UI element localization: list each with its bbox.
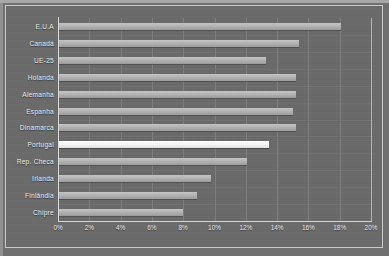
bar-row	[58, 204, 371, 221]
category-label-alemanha: Alemanha	[6, 91, 54, 98]
x-tick-label-8pct: 8%	[179, 224, 188, 231]
bar-row	[58, 120, 371, 137]
category-label-canad: Canadá	[6, 40, 54, 47]
y-label-slot: Finlândia	[6, 187, 54, 204]
y-label-slot: Portugal	[6, 136, 54, 153]
y-label-slot: Alemanha	[6, 86, 54, 103]
bar-row	[58, 136, 371, 153]
x-tick-label-16pct: 16%	[302, 224, 315, 231]
category-label-dinamarca: Dinamarca	[6, 124, 54, 131]
category-label-espanha: Espanha	[6, 108, 54, 115]
x-tick-label-12pct: 12%	[239, 224, 252, 231]
y-label-slot: Holanda	[6, 69, 54, 86]
bar-portugal[interactable]	[58, 141, 269, 148]
y-label-slot: Dinamarca	[6, 120, 54, 137]
bar-alemanha[interactable]	[58, 91, 296, 98]
y-label-slot: Espanha	[6, 103, 54, 120]
bar-rep-checa[interactable]	[58, 158, 247, 165]
bar-dinamarca[interactable]	[58, 124, 296, 131]
x-tick-label-6pct: 6%	[147, 224, 156, 231]
category-label-portugal: Portugal	[6, 141, 54, 148]
y-axis-category-labels: E.U.ACanadáUE-25HolandaAlemanhaEspanhaDi…	[6, 18, 54, 221]
plot-area	[58, 18, 371, 221]
chart-body: E.U.ACanadáUE-25HolandaAlemanhaEspanhaDi…	[6, 6, 382, 247]
x-tick-label-4pct: 4%	[116, 224, 125, 231]
chart-frame: E.U.ACanadáUE-25HolandaAlemanhaEspanhaDi…	[5, 5, 383, 248]
y-label-slot: Canadá	[6, 35, 54, 52]
category-label-rep-checa: Rep. Checa	[6, 158, 54, 165]
bar-ue-25[interactable]	[58, 57, 266, 64]
bar-finl-ndia[interactable]	[58, 192, 197, 199]
bar-row	[58, 170, 371, 187]
category-label-holanda: Holanda	[6, 74, 54, 81]
y-axis-line	[58, 17, 59, 222]
y-label-slot: Chipre	[6, 204, 54, 221]
bar-row	[58, 153, 371, 170]
x-axis-tick-labels: 0%2%4%6%8%10%12%14%16%18%20%	[58, 224, 371, 236]
bar-row	[58, 35, 371, 52]
bar-irlanda[interactable]	[58, 175, 211, 182]
category-label-irlanda: Irlanda	[6, 175, 54, 182]
bar-e-u-a[interactable]	[58, 23, 341, 30]
gridline-20pct	[371, 18, 372, 221]
y-label-slot: Irlanda	[6, 170, 54, 187]
y-label-slot: E.U.A	[6, 18, 54, 35]
bar-canad[interactable]	[58, 40, 299, 47]
category-label-chipre: Chipre	[6, 209, 54, 216]
x-tick-label-20pct: 20%	[365, 224, 378, 231]
bar-row	[58, 187, 371, 204]
scan-background: E.U.ACanadáUE-25HolandaAlemanhaEspanhaDi…	[0, 0, 389, 256]
bar-espanha[interactable]	[58, 108, 293, 115]
bar-holanda[interactable]	[58, 74, 296, 81]
bar-row	[58, 69, 371, 86]
bar-chipre[interactable]	[58, 209, 183, 216]
category-label-finl-ndia: Finlândia	[6, 192, 54, 199]
y-label-slot: UE-25	[6, 52, 54, 69]
bar-row	[58, 18, 371, 35]
x-tick-label-0pct: 0%	[53, 224, 62, 231]
x-axis-line	[58, 221, 372, 222]
x-tick-label-10pct: 10%	[208, 224, 221, 231]
x-tick-label-18pct: 18%	[333, 224, 346, 231]
category-label-e-u-a: E.U.A	[6, 23, 54, 30]
x-tick-label-14pct: 14%	[271, 224, 284, 231]
bar-row	[58, 86, 371, 103]
y-label-slot: Rep. Checa	[6, 153, 54, 170]
bar-row	[58, 52, 371, 69]
x-tick-label-2pct: 2%	[85, 224, 94, 231]
category-label-ue-25: UE-25	[6, 57, 54, 64]
bar-row	[58, 103, 371, 120]
